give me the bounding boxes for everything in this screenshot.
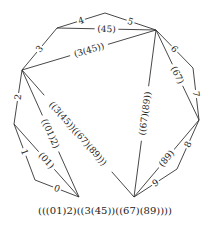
edge-labels: 0123456789(45)(3(45))(67)((67)(89))(89)(… [12,15,201,195]
diagonal-label: (67) [168,62,187,88]
diagonal-label: (89) [155,146,178,171]
diagonal-label: (3(45)) [69,40,110,61]
side-label: 8 [182,139,194,151]
diagonal-label-text: ((01)2) [40,117,62,150]
diagonal-label: ((67)(89)) [136,86,153,142]
side-label: 5 [125,15,136,27]
side-label: 3 [33,43,46,56]
diagonal-label-text: (67) [169,65,186,86]
triangulation-diagram: 0123456789(45)(3(45))(67)((67)(89))(89)(… [0,0,210,228]
bracketing-caption: (((01)2)((3(45))((67)(89)))) [38,205,172,216]
diagonal-label-text: (3(45)) [73,41,106,60]
side-label: 4 [76,15,87,27]
diagonal-label: (45) [95,24,119,34]
diagonal-label-text: (45) [97,24,116,34]
side-label: 0 [51,182,62,194]
side-label: 1 [18,146,30,157]
diagonal-label-text: ((67)(89)) [137,91,153,136]
side-label: 9 [149,177,161,190]
side-label: 7 [191,89,202,98]
side-label: 2 [12,92,23,102]
